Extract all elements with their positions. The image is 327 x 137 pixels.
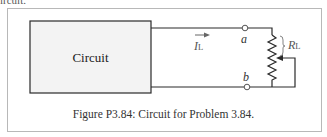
terminal-b-label: b <box>243 70 249 85</box>
current-label: IL <box>194 39 203 54</box>
load-resistor-label: RL <box>288 38 301 53</box>
brace-icon <box>280 36 285 56</box>
circuit-block-label: Circuit <box>72 50 108 65</box>
resistor-zigzag-icon <box>268 35 276 87</box>
figure-caption: Figure P3.84: Circuit for Problem 3.84. <box>0 108 327 120</box>
terminal-a-label: a <box>241 32 247 47</box>
current-arrow-icon <box>204 33 210 38</box>
terminal-a <box>242 25 248 31</box>
top-wire-right <box>248 28 272 35</box>
terminal-b <box>244 84 250 90</box>
